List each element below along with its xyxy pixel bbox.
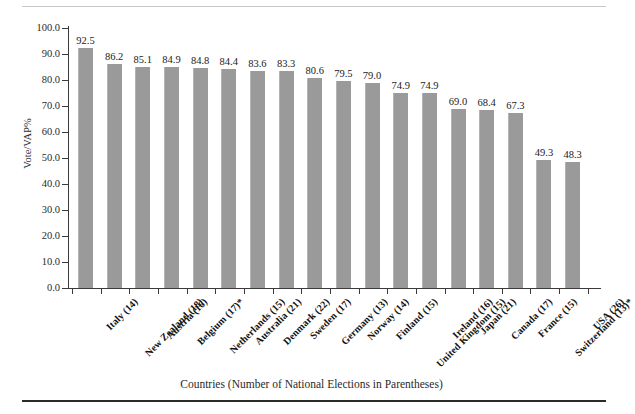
- bar[interactable]: [451, 109, 466, 288]
- top-rule: [22, 6, 606, 7]
- bar[interactable]: [365, 83, 380, 288]
- y-tick-label: 0.0: [16, 283, 60, 293]
- x-tick-mark: [273, 289, 274, 294]
- bar[interactable]: [78, 48, 93, 289]
- bar[interactable]: [479, 110, 494, 288]
- y-tick-label: 80.0: [16, 75, 60, 85]
- bar[interactable]: [422, 93, 437, 288]
- bar-value-label: 74.9: [412, 80, 446, 91]
- bar[interactable]: [279, 71, 294, 288]
- bar[interactable]: [307, 78, 322, 288]
- y-tick-label: 30.0: [16, 205, 60, 215]
- x-tick-mark: [244, 289, 245, 294]
- bar[interactable]: [164, 67, 179, 288]
- bar-value-label: 79.0: [355, 70, 389, 81]
- x-tick-mark: [330, 289, 331, 294]
- x-tick-mark: [502, 289, 503, 294]
- x-tick-mark: [301, 289, 302, 294]
- bar[interactable]: [107, 64, 122, 288]
- y-tick-label: 90.0: [16, 49, 60, 59]
- bar[interactable]: [135, 67, 150, 288]
- y-tick-label: 50.0: [16, 153, 60, 163]
- x-tick-mark: [387, 289, 388, 294]
- x-tick-mark: [559, 289, 560, 294]
- x-tick-mark: [158, 289, 159, 294]
- x-tick-mark: [588, 289, 589, 294]
- x-axis-line: [68, 288, 601, 289]
- bar[interactable]: [250, 71, 265, 288]
- y-tick-label: 10.0: [16, 257, 60, 267]
- y-tick-label: 20.0: [16, 231, 60, 241]
- bar[interactable]: [336, 81, 351, 288]
- y-tick-label: 40.0: [16, 179, 60, 189]
- y-tick-label: 100.0: [16, 23, 60, 33]
- x-tick-mark: [101, 289, 102, 294]
- x-tick-mark: [129, 289, 130, 294]
- x-tick-mark: [359, 289, 360, 294]
- x-tick-mark: [72, 289, 73, 294]
- x-tick-mark: [445, 289, 446, 294]
- x-tick-mark: [530, 289, 531, 294]
- x-tick-mark: [187, 289, 188, 294]
- plot-area: [68, 28, 601, 288]
- y-tick-label: 70.0: [16, 101, 60, 111]
- bar[interactable]: [221, 69, 236, 288]
- x-tick-mark: [473, 289, 474, 294]
- bar[interactable]: [393, 93, 408, 288]
- bar[interactable]: [193, 68, 208, 288]
- x-tick-mark: [215, 289, 216, 294]
- bar-value-label: 92.5: [69, 35, 103, 46]
- x-axis-title: Countries (Number of National Elections …: [0, 378, 623, 390]
- y-tick-label: 60.0: [16, 127, 60, 137]
- x-category-label: United Kingdom (15): [434, 296, 507, 369]
- y-tick-mark: [62, 288, 68, 289]
- bottom-rule: [22, 400, 606, 402]
- bar[interactable]: [508, 113, 523, 288]
- x-category-label: Switzerland (13)*: [573, 296, 635, 358]
- bar[interactable]: [565, 162, 580, 288]
- bar-value-label: 48.3: [556, 149, 590, 160]
- bar-value-label: 67.3: [498, 100, 532, 111]
- x-category-label: Italy (14): [103, 296, 139, 332]
- bar[interactable]: [536, 160, 551, 288]
- x-tick-mark: [416, 289, 417, 294]
